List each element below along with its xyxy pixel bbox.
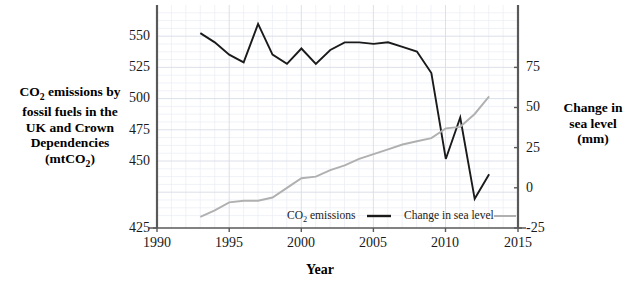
plot-background bbox=[157, 5, 518, 228]
x-tick-1990: 1990 bbox=[127, 235, 187, 251]
y-axis-left-title-line2: fossil fuels in the bbox=[0, 104, 140, 120]
y-tick-right-25: 25 bbox=[526, 140, 566, 156]
x-tick-2015: 2015 bbox=[488, 235, 548, 251]
legend-label-co2-emissions: CO2 emissions bbox=[287, 209, 355, 224]
x-tick-2005: 2005 bbox=[343, 235, 403, 251]
y-tick-right-neg25: -25 bbox=[526, 220, 566, 236]
y-tick-right-50: 50 bbox=[526, 99, 566, 115]
y-tick-left-475: 475 bbox=[110, 122, 150, 138]
x-tick-2010: 2010 bbox=[415, 235, 475, 251]
y-tick-left-425: 425 bbox=[110, 220, 150, 236]
y-tick-left-450: 450 bbox=[110, 153, 150, 169]
y-tick-right-75: 75 bbox=[526, 59, 566, 75]
legend-label-change-in-sea-level: Change in sea level bbox=[404, 209, 494, 221]
x-tick-1995: 1995 bbox=[199, 235, 259, 251]
y-tick-left-525: 525 bbox=[110, 59, 150, 75]
y-tick-left-500: 500 bbox=[110, 90, 150, 106]
x-axis-title: Year bbox=[250, 262, 390, 278]
y-tick-right-0: 0 bbox=[526, 180, 566, 196]
y-axis-right-title-line2: sea level bbox=[548, 116, 638, 132]
y-tick-left-550: 550 bbox=[110, 28, 150, 44]
chart-figure: CO2 emissions by fossil fuels in the UK … bbox=[0, 0, 638, 297]
x-tick-2000: 2000 bbox=[271, 235, 331, 251]
